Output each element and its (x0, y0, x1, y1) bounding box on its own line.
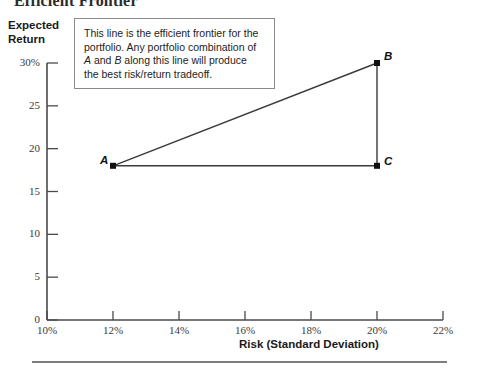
y-axis-tick-label: 5 (6, 270, 40, 282)
x-axis-tick-label: 18% (291, 324, 331, 336)
data-point-label-c: C (384, 155, 392, 167)
x-axis-tick-label: 20% (357, 324, 397, 336)
x-axis-tick-label: 16% (225, 324, 265, 336)
plot-area (0, 0, 479, 376)
data-point-label-a: A (100, 154, 108, 166)
y-axis-ticks (47, 63, 58, 320)
chart-canvas: Efficient Frontier Expected Return Risk … (0, 0, 479, 376)
y-axis-tick-label: 25 (6, 99, 40, 111)
axis-lines (47, 63, 443, 320)
x-axis-tick-label: 22% (423, 324, 463, 336)
x-axis-tick-label: 12% (93, 324, 133, 336)
x-axis-tick-label: 10% (27, 324, 67, 336)
x-axis-ticks (47, 311, 443, 320)
y-axis-tick-label: 30% (6, 56, 40, 68)
y-axis-tick-label: 15 (6, 185, 40, 197)
footer-rule (32, 361, 447, 363)
data-series (113, 63, 377, 166)
y-axis-tick-label: 20 (6, 142, 40, 154)
data-point-label-b: B (384, 50, 392, 62)
y-axis-tick-label: 10 (6, 227, 40, 239)
x-axis-tick-label: 14% (159, 324, 199, 336)
